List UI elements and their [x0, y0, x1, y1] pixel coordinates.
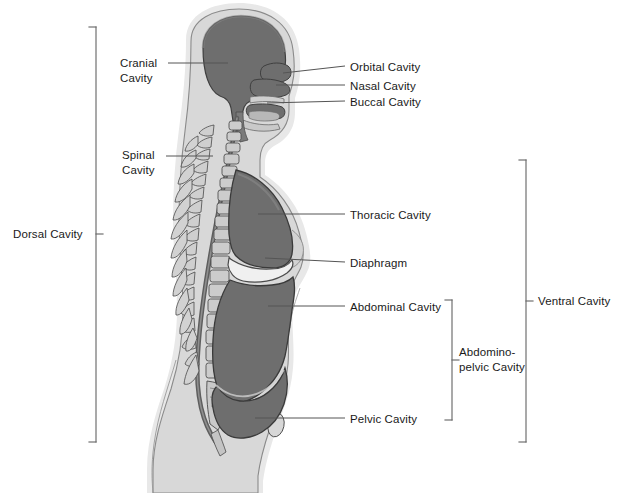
- orbital-cavity-label: Orbital Cavity: [350, 60, 420, 75]
- spinal-cavity-label: Spinal Cavity: [122, 148, 155, 177]
- dorsal-cavity-label: Dorsal Cavity: [13, 227, 83, 242]
- nasal-cavity-label: Nasal Cavity: [350, 79, 416, 94]
- buccal-cavity-label: Buccal Cavity: [350, 95, 421, 110]
- body-cavities-figure: Cranial CavitySpinal CavityDorsal Cavity…: [0, 0, 631, 493]
- abdominopelvic-cavity-label: Abdomino- pelvic Cavity: [459, 345, 525, 374]
- ventral-cavity-label: Ventral Cavity: [538, 294, 610, 309]
- thoracic-cavity-label: Thoracic Cavity: [350, 208, 431, 223]
- thoracic-cavity-region: [229, 170, 293, 268]
- abdominal-cavity-label: Abdominal Cavity: [350, 300, 441, 315]
- ventral-cavity-bracket: [519, 160, 533, 442]
- cranial-cavity-label: Cranial Cavity: [120, 56, 157, 85]
- brackets: [89, 27, 533, 442]
- thoracic-cavity-shape: [229, 170, 293, 268]
- anatomy-illustration: [0, 0, 631, 493]
- dorsal-cavity-bracket: [89, 27, 103, 442]
- diaphragm-label: Diaphragm: [350, 256, 407, 271]
- pelvic-cavity-label: Pelvic Cavity: [350, 412, 417, 427]
- abdominopelvic-cavity-bracket: [445, 300, 459, 420]
